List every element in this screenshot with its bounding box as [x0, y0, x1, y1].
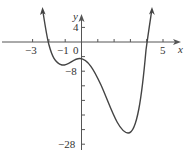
- x-tick-label-neg3: −3: [25, 44, 37, 56]
- y-tick-label-4: 4: [73, 21, 79, 33]
- y-tick-label-neg28: −28: [58, 138, 76, 150]
- function-graph: x y −3 −1 0 5 4 −8 −28: [0, 0, 190, 158]
- x-axis-label: x: [177, 43, 183, 55]
- x-tick-label-5: 5: [160, 44, 166, 56]
- y-tick-label-neg8: −8: [65, 65, 77, 77]
- y-axis: [79, 14, 86, 150]
- x-tick-label-neg1: −1: [57, 44, 69, 56]
- function-curve: [43, 12, 152, 133]
- x-tick-label-0: 0: [73, 44, 79, 56]
